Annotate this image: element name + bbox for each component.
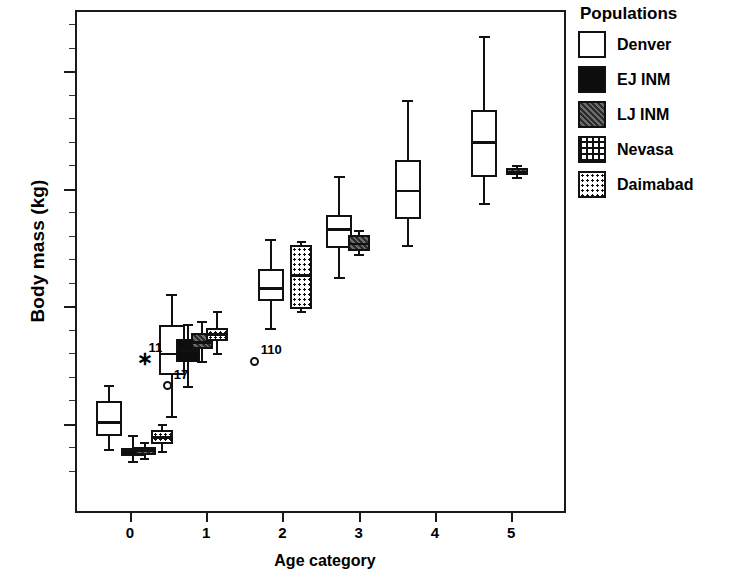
median-line — [348, 243, 370, 246]
x-axis-tick-label: 5 — [496, 524, 526, 541]
median-line — [191, 341, 213, 344]
median-line — [176, 349, 200, 352]
whisker-cap-lower — [297, 311, 306, 313]
y-axis-tick — [64, 306, 75, 308]
whisker-cap-lower — [512, 177, 521, 179]
median-line — [258, 287, 284, 290]
legend-swatch — [578, 101, 606, 128]
x-axis-tick — [130, 513, 132, 522]
legend-label: LJ INM — [617, 106, 669, 124]
y-axis-title: Body mass (kg) — [27, 151, 49, 351]
whisker-cap-upper — [297, 241, 306, 243]
plot-area: ∗1117110 — [75, 10, 566, 513]
whisker-cap-upper — [197, 321, 206, 323]
whisker-upper — [108, 386, 110, 401]
legend-title: Populations — [580, 4, 736, 24]
legend-item-ej-inm: EJ INM — [578, 66, 736, 93]
whisker-upper — [171, 295, 173, 324]
whisker-upper — [216, 312, 218, 328]
median-line — [471, 141, 497, 144]
whisker-cap-lower — [402, 245, 413, 247]
whisker-upper — [407, 101, 409, 160]
legend-item-lj-inm: LJ INM — [578, 101, 736, 128]
median-line — [151, 436, 173, 439]
median-line — [206, 333, 228, 336]
boxplot-figure: Body mass (kg) Age category 5.010.015.02… — [0, 0, 737, 585]
whisker-cap-lower — [158, 451, 167, 453]
x-axis-tick-label: 1 — [191, 524, 221, 541]
outlier-label: 17 — [174, 367, 188, 382]
y-axis-tick — [64, 424, 75, 426]
legend-items: DenverEJ INMLJ INMNevasaDaimabad — [578, 31, 736, 198]
whisker-lower — [270, 301, 272, 329]
whisker-cap-upper — [479, 36, 490, 38]
median-line — [326, 228, 352, 231]
whisker-cap-lower — [183, 386, 193, 388]
outlier-marker — [250, 357, 259, 366]
whisker-upper — [270, 240, 272, 269]
legend-swatch — [578, 136, 606, 163]
whisker-lower — [338, 248, 340, 277]
whisker-cap-upper — [354, 230, 363, 232]
outlier-marker-extreme: ∗ — [137, 354, 153, 363]
x-axis-tick-label: 0 — [115, 524, 145, 541]
median-line — [395, 190, 421, 193]
legend-swatch — [578, 31, 606, 58]
whisker-upper — [483, 37, 485, 110]
legend-swatch — [578, 66, 606, 93]
legend-label: EJ INM — [617, 71, 670, 89]
x-axis-tick — [435, 513, 437, 522]
y-axis-tick — [64, 189, 75, 191]
median-line — [506, 171, 528, 174]
legend-item-nevasa: Nevasa — [578, 136, 736, 163]
whisker-cap-upper — [512, 165, 521, 167]
x-axis-tick — [511, 513, 513, 522]
outlier-label: 110 — [261, 342, 282, 357]
whisker-cap-lower — [334, 277, 345, 279]
legend-label: Nevasa — [617, 141, 673, 159]
x-axis-tick-label: 2 — [267, 524, 297, 541]
legend-label: Daimabad — [617, 176, 693, 194]
whisker-lower — [108, 436, 110, 450]
box-iqr — [96, 401, 122, 436]
whisker-cap-lower — [140, 458, 149, 460]
whisker-cap-upper — [158, 424, 167, 426]
box-iqr — [290, 245, 312, 310]
whisker-upper — [338, 177, 340, 216]
whisker-cap-lower — [354, 254, 363, 256]
whisker-lower — [407, 219, 409, 246]
whisker-cap-upper — [183, 324, 193, 326]
legend-item-denver: Denver — [578, 31, 736, 58]
whisker-cap-upper — [140, 442, 149, 444]
legend-swatch — [578, 171, 606, 198]
median-line — [290, 274, 312, 277]
whisker-cap-lower — [104, 449, 115, 451]
legend: Populations DenverEJ INMLJ INMNevasaDaim… — [578, 4, 736, 206]
legend-item-daimabad: Daimabad — [578, 171, 736, 198]
whisker-cap-lower — [197, 361, 206, 363]
whisker-cap-lower — [128, 461, 138, 463]
whisker-cap-lower — [166, 416, 177, 418]
whisker-cap-upper — [104, 385, 115, 387]
whisker-cap-upper — [265, 239, 276, 241]
box-iqr — [258, 269, 284, 301]
whisker-upper — [187, 325, 189, 339]
whisker-lower — [483, 177, 485, 204]
whisker-cap-upper — [166, 294, 177, 296]
whisker-cap-upper — [128, 435, 138, 437]
outlier-label: 11 — [149, 340, 163, 355]
x-axis-tick — [282, 513, 284, 522]
whisker-upper — [201, 322, 203, 333]
y-axis-tick — [64, 71, 75, 73]
median-line — [96, 421, 122, 424]
x-axis-title: Age category — [175, 552, 475, 570]
whisker-cap-lower — [479, 203, 490, 205]
whisker-cap-upper — [334, 176, 345, 178]
legend-label: Denver — [617, 36, 671, 54]
median-line — [134, 449, 156, 452]
whisker-cap-upper — [402, 100, 413, 102]
x-axis-tick-label: 4 — [420, 524, 450, 541]
x-axis-tick-label: 3 — [344, 524, 374, 541]
whisker-cap-upper — [213, 311, 222, 313]
whisker-cap-lower — [265, 328, 276, 330]
